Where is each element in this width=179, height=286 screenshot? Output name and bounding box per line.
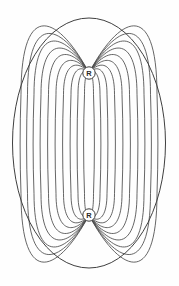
field-line <box>33 41 89 247</box>
field-line <box>89 69 108 220</box>
field-line <box>89 65 115 223</box>
field-line <box>89 72 94 215</box>
top-node-label: R <box>86 69 92 78</box>
field-line-canvas: RR <box>0 0 179 286</box>
field-lines-group <box>20 26 158 262</box>
field-line <box>48 54 89 233</box>
field-line <box>77 71 89 217</box>
bottom-node-label: R <box>86 211 92 220</box>
field-line <box>84 72 89 215</box>
field-line <box>70 69 89 220</box>
outer-ellipse-boundary <box>13 18 166 268</box>
field-line <box>89 71 101 217</box>
field-line <box>89 41 145 247</box>
field-line <box>63 65 89 223</box>
field-line-diagram: RR <box>0 0 179 286</box>
field-line <box>89 54 130 233</box>
